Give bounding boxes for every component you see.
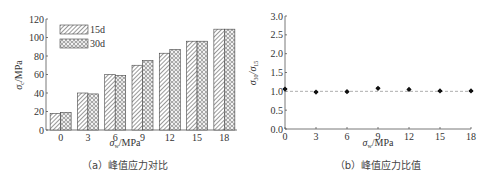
x-tick-label: 15 — [435, 131, 445, 142]
y-axis-label: σ30/σ15 — [247, 61, 259, 86]
data-point — [375, 86, 380, 91]
bar-30d — [197, 41, 208, 130]
y-tick-label: 0.0 — [271, 124, 284, 135]
x-tick-label: 18 — [219, 132, 229, 143]
caption-b: （b）峰值应力比值 — [335, 159, 421, 171]
legend-swatch — [60, 39, 88, 48]
figure-canvas: 020406080100120 0369121518 15d30d σw/MPa… — [0, 0, 491, 181]
x-axis-label: σw/MPa — [110, 137, 142, 149]
x-tick-label: 18 — [466, 131, 476, 142]
scatter-points — [282, 86, 473, 95]
y-tick-label: 1.0 — [271, 86, 284, 97]
x-tick-label: 9 — [140, 132, 145, 143]
y-tick-label: 1.5 — [271, 67, 284, 78]
bar-30d — [61, 112, 71, 130]
data-point — [313, 89, 318, 94]
bar-15d — [132, 65, 143, 130]
scatter-chart: 0.00.51.01.52.02.53.00369121518 σw/MPa σ… — [247, 11, 476, 172]
x-tick-label: 3 — [314, 131, 319, 142]
bar-15d — [77, 93, 88, 130]
x-tick-label: 12 — [165, 132, 175, 143]
bar-chart: 020406080100120 0369121518 15d30d σw/MPa… — [13, 14, 237, 172]
bar-30d — [170, 50, 181, 130]
x-tick-label: 3 — [85, 132, 90, 143]
y-tick-label: 2.5 — [271, 29, 284, 40]
y-axis-label: σc/MPa — [13, 60, 25, 90]
y-tick-label: 40 — [34, 88, 44, 99]
bar-15d — [159, 53, 170, 130]
data-point — [282, 86, 287, 91]
legend-label: 15d — [90, 24, 105, 35]
caption-a: （a）峰值应力对比 — [82, 159, 168, 171]
bar-30d — [224, 29, 235, 130]
y-tick-label: 0 — [39, 125, 44, 136]
y-tick-label: 2.0 — [271, 48, 284, 59]
x-tick-label: 0 — [283, 131, 288, 142]
x-tick-label: 0 — [58, 132, 63, 143]
y-tick-label: 80 — [34, 51, 44, 62]
right-axes: 0.00.51.01.52.02.53.00369121518 — [271, 11, 477, 143]
bar-30d — [88, 94, 99, 130]
bar-15d — [50, 113, 61, 130]
bar-15d — [214, 29, 225, 130]
legend-swatch — [60, 25, 88, 34]
x-tick-label: 15 — [192, 132, 202, 143]
y-tick-label: 60 — [34, 69, 44, 80]
data-point — [344, 89, 349, 94]
legend-label: 30d — [90, 38, 105, 49]
x-axis-label: σw/MPa — [363, 137, 395, 149]
figure: 020406080100120 0369121518 15d30d σw/MPa… — [0, 0, 491, 181]
y-tick-label: 100 — [29, 32, 44, 43]
y-tick-label: 0.5 — [271, 105, 284, 116]
data-point — [468, 88, 473, 93]
y-tick-label: 20 — [34, 106, 44, 117]
x-tick-label: 12 — [404, 131, 414, 142]
legend: 15d30d — [60, 24, 105, 49]
bar-15d — [187, 41, 198, 130]
y-tick-label: 3.0 — [271, 11, 284, 22]
x-tick-label: 6 — [345, 131, 350, 142]
y-tick-label: 120 — [29, 14, 44, 25]
data-point — [437, 88, 442, 93]
bar-30d — [143, 61, 154, 130]
bar-15d — [105, 75, 116, 131]
bar-30d — [115, 75, 126, 130]
